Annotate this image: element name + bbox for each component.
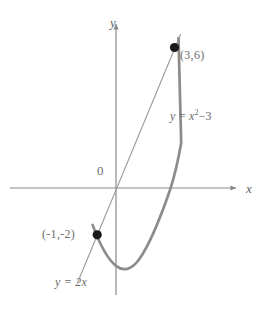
math-figure: y x 0 (3,6) (-1,-2) y = x2−3 y = 2x xyxy=(0,0,273,311)
x-axis-label: x xyxy=(246,182,252,195)
point-label-3-6: (3,6) xyxy=(180,49,205,61)
graph-canvas xyxy=(0,0,273,311)
line-equation-label: y = 2x xyxy=(55,276,87,288)
line-y-equals-2x xyxy=(78,35,181,283)
parabola-eq-constant: −3 xyxy=(199,109,212,123)
point-label-minus1-minus2: (-1,-2) xyxy=(42,228,75,240)
point-marker-3-6 xyxy=(170,43,179,52)
parabola-y-equals-x-squared-minus-3 xyxy=(93,38,182,269)
y-axis-label: y xyxy=(110,16,116,29)
point-marker-minus1-minus2 xyxy=(93,230,102,239)
origin-label: 0 xyxy=(97,164,104,177)
parabola-equation-label: y = x2−3 xyxy=(170,110,212,122)
parabola-eq-operator: = xyxy=(176,109,189,123)
